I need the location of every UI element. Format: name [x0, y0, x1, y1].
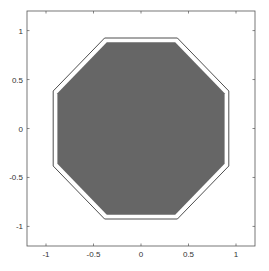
- y-tick-label: 1: [19, 27, 24, 36]
- filled-octagon: [57, 42, 224, 214]
- x-tick-label: 0.5: [183, 250, 195, 259]
- series-layer: [53, 38, 229, 219]
- y-tick-label: 0.5: [12, 76, 24, 85]
- x-tick-label: -1: [42, 250, 50, 259]
- y-tick-label: -1: [16, 222, 24, 231]
- y-tick-label: -0.5: [9, 173, 23, 182]
- x-tick-label: 0: [139, 250, 144, 259]
- x-tick-label: -0.5: [87, 250, 101, 259]
- x-tick-label: 1: [234, 250, 239, 259]
- octagon-plot: -1-0.500.51 -1-0.500.51: [0, 0, 269, 271]
- y-tick-label: 0: [19, 125, 24, 134]
